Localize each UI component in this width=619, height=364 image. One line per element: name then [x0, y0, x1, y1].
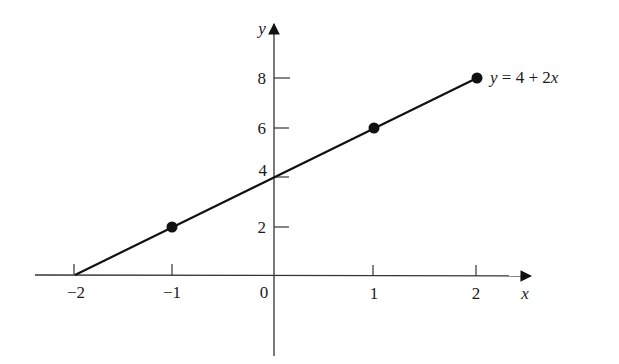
y-tick-label: 8	[258, 69, 267, 88]
y-tick-label: 4	[259, 161, 268, 180]
origin-label: 0	[260, 283, 269, 302]
data-point	[472, 73, 483, 84]
x-tick-label: 2	[472, 284, 481, 303]
y-axis-label: y	[256, 19, 266, 38]
equation-label: y = 4 + 2x	[488, 68, 559, 87]
y-ticks	[274, 78, 290, 227]
data-line	[75, 78, 477, 275]
data-point	[167, 222, 178, 233]
x-tick-label: 1	[370, 284, 379, 303]
x-tick-label: −2	[67, 283, 85, 302]
x-axis-label: x	[520, 284, 529, 303]
y-tick-label: 6	[258, 119, 267, 138]
x-axis	[35, 275, 531, 276]
line-chart: −2 −1 0 1 2 x 8 6 4 2 y y = 4 + 2x	[0, 0, 619, 364]
x-tick-label: −1	[163, 283, 181, 302]
data-point	[369, 123, 380, 134]
y-tick-label: 2	[258, 218, 267, 237]
x-ticks	[74, 264, 476, 276]
